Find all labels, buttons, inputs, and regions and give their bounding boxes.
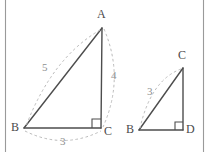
vertex-label-small-d: D [186,123,195,135]
measure-label-ac: 4 [111,70,117,81]
vertex-label-a: A [97,8,106,20]
vertex-label-b: B [11,121,19,133]
segment-ac [101,28,102,128]
geometry-figure: A B C 5 4 3 C B D 3 [0,0,210,159]
triangle-abc-group [24,28,114,141]
segment-small-bc [139,68,183,130]
right-angle-marker-d [175,122,183,130]
vertex-label-small-c: C [178,49,186,61]
measure-label-bc: 3 [60,136,66,147]
vertex-label-c: C [104,125,112,137]
segment-ab [24,28,102,128]
triangle-bcd-group [139,68,183,130]
vertex-label-small-b: B [126,123,134,135]
measure-label-ab: 5 [42,62,48,73]
measure-label-small-bc: 3 [147,86,153,97]
right-angle-marker-c [92,119,101,128]
